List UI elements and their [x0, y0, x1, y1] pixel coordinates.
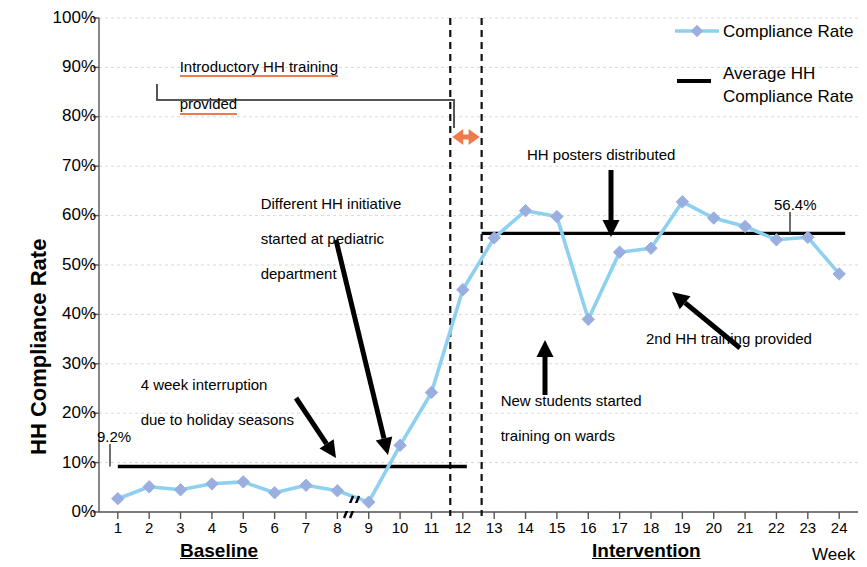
y-tick-label: 80%: [38, 106, 96, 126]
chart-canvas: [0, 0, 867, 567]
annotation-new-students: New students started training on wards: [484, 374, 642, 462]
x-tick-label: 19: [666, 519, 698, 537]
holiday-interruption-arrow-shaft: [296, 398, 327, 444]
x-tick-label: 13: [478, 519, 510, 537]
annotation-intro-training-line2: provided: [180, 95, 238, 115]
data-point-marker[interactable]: [300, 479, 312, 491]
data-point-marker[interactable]: [613, 246, 625, 258]
data-point-marker[interactable]: [237, 476, 249, 488]
data-point-marker[interactable]: [174, 484, 186, 496]
annotation-holiday-line1: 4 week interruption: [141, 376, 268, 393]
value-label-baseline-average: 9.2%: [97, 428, 131, 446]
y-tick-label: 40%: [38, 304, 96, 324]
x-tick-label: 11: [415, 519, 447, 537]
legend-item-average-line1: Average HH: [723, 64, 815, 84]
data-point-marker[interactable]: [331, 485, 343, 497]
washout-arrow-head-left: [452, 129, 463, 145]
annotation-intro-training-line1: Introductory HH training: [180, 58, 338, 78]
y-tick-label: 30%: [38, 354, 96, 374]
data-point-marker[interactable]: [708, 212, 720, 224]
x-tick-label: 17: [604, 519, 636, 537]
y-tick-label: 20%: [38, 403, 96, 423]
x-tick-label: 10: [384, 519, 416, 537]
annotation-pediatric-initiative: Different HH initiative started at pedia…: [244, 177, 401, 301]
y-tick-label: 50%: [38, 255, 96, 275]
annotation-pediatric-line3: department: [261, 265, 337, 282]
phase-label-intervention: Intervention: [592, 540, 701, 562]
x-tick-label: 18: [635, 519, 667, 537]
chart-figure: HH Compliance Rate 100% 90% 80% 70% 60% …: [0, 0, 867, 567]
pediatric-initiative-arrow-head: [376, 436, 393, 455]
data-point-marker[interactable]: [143, 481, 155, 493]
annotation-holiday-interruption: 4 week interruption due to holiday seaso…: [124, 358, 294, 446]
data-point-marker[interactable]: [739, 220, 751, 232]
y-tick-label: 90%: [38, 57, 96, 77]
new-students-arrow-head: [537, 340, 554, 357]
legend-item-compliance-rate: Compliance Rate: [723, 22, 853, 42]
value-label-intervention-average: 56.4%: [774, 196, 817, 214]
y-tick-label: 10%: [38, 453, 96, 473]
x-tick-label: 23: [792, 519, 824, 537]
legend-marker-diamond: [691, 25, 703, 37]
annotation-holiday-line2: due to holiday seasons: [141, 411, 294, 428]
y-tick-label: 100%: [38, 8, 96, 28]
x-tick-label: 5: [227, 519, 259, 537]
y-tick-label: 60%: [38, 205, 96, 225]
x-tick-label: 15: [541, 519, 573, 537]
legend-item-average-line2: Compliance Rate: [723, 87, 853, 107]
data-point-marker[interactable]: [112, 492, 124, 504]
annotation-students-line1: New students started: [501, 392, 642, 409]
x-tick-label: 21: [729, 519, 761, 537]
annotation-pediatric-line2: started at pediatric: [261, 230, 384, 247]
x-tick-label: 3: [165, 519, 197, 537]
annotation-second-training: 2nd HH training provided: [646, 330, 812, 348]
annotation-posters-distributed: HH posters distributed: [527, 146, 675, 164]
x-tick-label: 14: [510, 519, 542, 537]
washout-arrow-head-right: [469, 129, 480, 145]
annotation-students-line2: training on wards: [501, 427, 615, 444]
x-axis-title: Week: [812, 545, 855, 565]
y-tick-label: 70%: [38, 156, 96, 176]
data-point-marker[interactable]: [268, 487, 280, 499]
x-tick-label: 2: [133, 519, 165, 537]
y-tick-label: 0%: [38, 502, 96, 522]
x-tick-label: 8: [321, 519, 353, 537]
data-point-marker[interactable]: [206, 478, 218, 490]
data-point-marker[interactable]: [770, 234, 782, 246]
x-tick-label: 22: [760, 519, 792, 537]
x-tick-label: 1: [102, 519, 134, 537]
x-tick-label: 9: [353, 519, 385, 537]
compliance-rate-line: [118, 202, 839, 502]
phase-label-baseline: Baseline: [180, 540, 258, 562]
axis-break-gap: [344, 503, 362, 511]
annotation-pediatric-line1: Different HH initiative: [261, 195, 402, 212]
x-tick-label: 16: [572, 519, 604, 537]
x-tick-label: 6: [259, 519, 291, 537]
x-tick-label: 12: [447, 519, 479, 537]
x-tick-label: 24: [823, 519, 855, 537]
x-tick-label: 7: [290, 519, 322, 537]
data-point-marker[interactable]: [582, 313, 594, 325]
annotation-intro-training: Introductory HH training provided: [163, 40, 338, 132]
x-tick-label: 20: [698, 519, 730, 537]
x-tick-label: 4: [196, 519, 228, 537]
data-point-marker[interactable]: [551, 210, 563, 222]
